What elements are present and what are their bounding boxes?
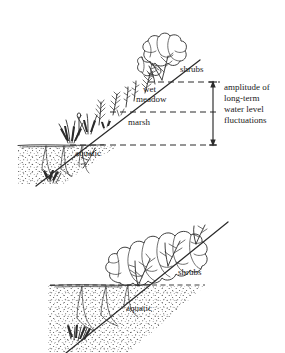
- amplitude-line-3: water level: [224, 104, 264, 114]
- label-wet-meadow: wet meadow: [136, 84, 167, 104]
- shoreline-slope-upper: [36, 60, 200, 186]
- label-shrubs-upper: shrubs: [180, 64, 204, 74]
- label-wet-meadow-line1: wet: [143, 84, 156, 94]
- sediment-stipple-icon: [14, 144, 126, 188]
- label-shrubs-lower: shrubs: [178, 267, 202, 277]
- label-aquatic-upper: aquatic: [75, 148, 101, 158]
- amplitude-line-1: amplitude of: [224, 82, 270, 92]
- amplitude-line-4: fluctuations: [224, 115, 267, 125]
- double-arrow-icon: [209, 81, 217, 147]
- upper-panel: shrubs wet meadow marsh aquatic amplitud…: [14, 33, 270, 188]
- label-aquatic-lower: aquatic: [126, 303, 152, 313]
- label-wet-meadow-line2: meadow: [136, 94, 167, 104]
- sediment-stipple-icon-lower: [44, 284, 209, 353]
- label-marsh: marsh: [128, 117, 150, 127]
- wetland-zonation-figure: shrubs wet meadow marsh aquatic amplitud…: [0, 0, 285, 353]
- annotation-amplitude: amplitude of long-term water level fluct…: [224, 82, 270, 125]
- figure-canvas: shrubs wet meadow marsh aquatic amplitud…: [0, 0, 285, 353]
- lower-panel: shrubs aquatic: [44, 222, 228, 353]
- amplitude-line-2: long-term: [224, 93, 260, 103]
